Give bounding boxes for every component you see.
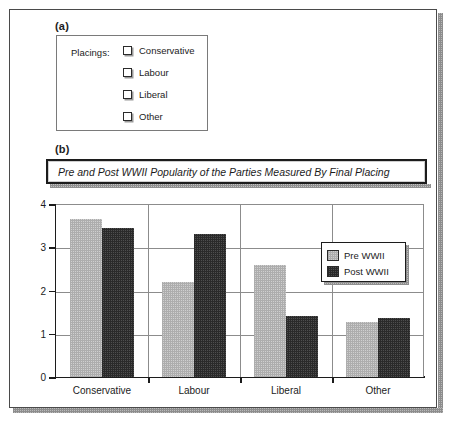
bar <box>254 265 286 377</box>
placings-option-label: Liberal <box>139 89 168 100</box>
panel-b-label: (b) <box>55 143 70 155</box>
placings-option-other[interactable]: Other <box>123 111 163 122</box>
panel-a-label: (a) <box>55 20 69 32</box>
bar <box>102 228 134 377</box>
chart-title-bar: Pre and Post WWII Popularity of the Part… <box>46 159 427 184</box>
gridline-vertical <box>148 205 149 377</box>
chart-legend-swatch <box>327 266 339 277</box>
y-axis-tick-label: 0 <box>18 372 46 383</box>
bar <box>286 316 318 377</box>
placings-option-labour[interactable]: Labour <box>123 67 169 78</box>
y-axis-tick <box>49 291 56 293</box>
document-frame-shadow-right <box>438 13 443 412</box>
checkbox-icon[interactable] <box>123 68 132 77</box>
y-axis-tick-label: 4 <box>18 199 46 210</box>
checkbox-icon[interactable] <box>123 46 132 55</box>
placings-title: Placings: <box>71 47 110 58</box>
plot-area <box>56 204 424 377</box>
checkbox-icon[interactable] <box>123 112 132 121</box>
document-frame-shadow-bottom <box>13 408 443 413</box>
y-axis-tick-label: 1 <box>18 328 46 339</box>
gridline-vertical <box>332 205 333 377</box>
placings-option-label: Conservative <box>139 45 194 56</box>
y-axis-tick <box>49 204 56 206</box>
x-axis-tick <box>332 377 334 383</box>
bar <box>346 322 378 377</box>
chart-legend: Pre WWIIPost WWII <box>321 242 406 282</box>
x-axis-label: Conservative <box>73 385 131 396</box>
y-axis-tick <box>49 247 56 249</box>
placings-option-liberal[interactable]: Liberal <box>123 89 168 100</box>
chart-title-shadow <box>50 184 431 188</box>
y-axis-tick-label: 2 <box>18 285 46 296</box>
x-axis-tick <box>148 377 150 383</box>
bar <box>194 234 226 377</box>
y-axis-tick <box>49 377 56 379</box>
placings-option-label: Other <box>139 111 163 122</box>
chart-legend-swatch <box>327 250 339 261</box>
x-axis-label: Labour <box>178 385 209 396</box>
placings-panel: Placings: Conservative Labour Liberal Ot… <box>56 35 208 131</box>
chart-title: Pre and Post WWII Popularity of the Part… <box>58 166 389 178</box>
chart-title-inner: Pre and Post WWII Popularity of the Part… <box>48 161 425 182</box>
x-axis-tick <box>240 377 242 383</box>
chart-legend-label: Pre WWII <box>344 250 385 261</box>
bar-chart: 01234ConservativeLabourLiberalOtherPre W… <box>18 196 434 402</box>
bar <box>378 318 410 377</box>
x-axis-label: Liberal <box>271 385 301 396</box>
x-axis-label: Other <box>365 385 390 396</box>
y-axis-tick-label: 3 <box>18 242 46 253</box>
placings-option-label: Labour <box>139 67 169 78</box>
gridline-vertical <box>240 205 241 377</box>
chart-legend-item[interactable]: Pre WWII <box>327 247 405 263</box>
chart-legend-label: Post WWII <box>344 266 389 277</box>
checkbox-icon[interactable] <box>123 90 132 99</box>
bar <box>162 282 194 377</box>
placings-option-conservative[interactable]: Conservative <box>123 45 194 56</box>
y-axis-tick <box>49 334 56 336</box>
bar <box>70 219 102 377</box>
chart-legend-item[interactable]: Post WWII <box>327 263 405 279</box>
